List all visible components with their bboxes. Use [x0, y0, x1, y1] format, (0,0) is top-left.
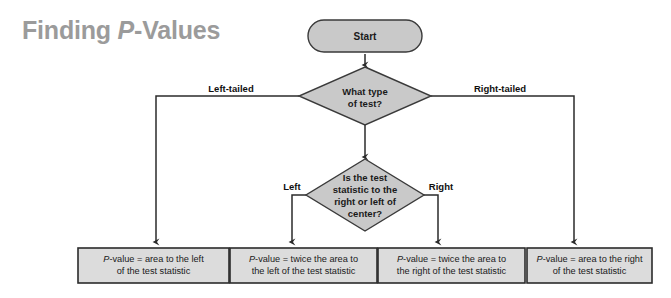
decision2-line-3: right or left of: [334, 196, 397, 207]
connector-right-branch: [424, 195, 438, 242]
flowchart-page: Finding P-Values Start What type of test…: [0, 0, 671, 298]
outcome-4-line-1: P-value = area to the right: [537, 254, 643, 264]
outcome-4-rest: -value = area to the right: [543, 254, 643, 264]
edge-label-right-tailed: Right-tailed: [474, 83, 526, 94]
decision2-line-2: statistic to the: [333, 184, 397, 195]
decision1-line-2: of test?: [348, 98, 383, 109]
connector-right-tailed: [431, 96, 574, 242]
outcome-4-line-2: of the test statistic: [553, 266, 627, 276]
outcome-2-line-2: the left of the test statistic: [252, 266, 356, 276]
connector-left-tailed: [156, 96, 299, 242]
decision2-line-1: Is the test: [343, 172, 388, 183]
edge-label-right: Right: [429, 181, 454, 192]
outcome-2-rest: -value = twice the area to: [255, 254, 358, 264]
outcome-3-rest: -value = twice the area to: [403, 254, 506, 264]
outcome-1-line-1: P-value = area to the left: [103, 254, 204, 264]
connector-left-branch: [292, 195, 306, 242]
decision1-line-1: What type: [342, 86, 387, 97]
edge-label-left-tailed: Left-tailed: [208, 83, 254, 94]
outcome-3-line-1: P-value = twice the area to: [397, 254, 506, 264]
start-node-label: Start: [354, 31, 377, 42]
outcome-1-rest: -value = area to the left: [109, 254, 204, 264]
flowchart-canvas: Start What type of test? Is the test sta…: [0, 0, 671, 298]
edge-label-left: Left: [283, 181, 301, 192]
outcome-2-line-1: P-value = twice the area to: [249, 254, 358, 264]
outcome-1-line-2: of the test statistic: [117, 266, 191, 276]
decision2-line-4: center?: [348, 208, 383, 219]
outcome-3-line-2: the right of the test statistic: [397, 266, 507, 276]
